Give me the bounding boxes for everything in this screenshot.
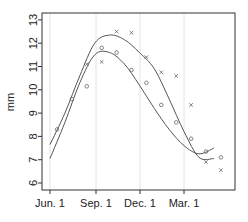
point-circle (174, 121, 178, 125)
line-chart: 678910111213 Jun. 1Sep. 1Dec. 1Mar. 1 mm (0, 0, 248, 222)
smooth-curves (50, 35, 214, 160)
point-circle (219, 156, 223, 160)
point-cross (189, 103, 193, 107)
y-tick-label: 9 (27, 110, 39, 116)
plot-frame (42, 13, 235, 190)
point-cross (204, 160, 208, 164)
point-circle (130, 68, 134, 72)
x-tick-label: Dec. 1 (124, 197, 156, 209)
y-tick-label: 8 (27, 133, 39, 139)
point-circle (100, 46, 104, 50)
y-tick-label: 7 (27, 157, 39, 163)
point-cross (130, 31, 134, 35)
y-tick-label: 6 (27, 180, 39, 186)
point-cross (160, 71, 164, 75)
data-points (55, 30, 223, 172)
y-axis: 678910111213 (27, 14, 42, 186)
x-tick-label: Jun. 1 (35, 197, 65, 209)
point-circle (115, 51, 119, 55)
point-cross (115, 30, 119, 34)
y-axis-title: mm (4, 93, 16, 111)
point-circle (145, 81, 149, 85)
y-tick-label: 10 (27, 84, 39, 96)
point-circle (85, 85, 89, 89)
y-tick-label: 12 (27, 37, 39, 49)
point-cross (145, 55, 149, 59)
point-circle (189, 137, 193, 141)
point-cross (174, 74, 178, 78)
x-tick-label: Sep. 1 (80, 197, 112, 209)
x-axis: Jun. 1Sep. 1Dec. 1Mar. 1 (35, 190, 199, 209)
point-cross (100, 60, 104, 64)
y-tick-label: 13 (27, 14, 39, 26)
point-cross (219, 168, 223, 172)
x-tick-label: Mar. 1 (169, 197, 200, 209)
y-tick-label: 11 (27, 61, 39, 72)
point-circle (160, 103, 164, 107)
